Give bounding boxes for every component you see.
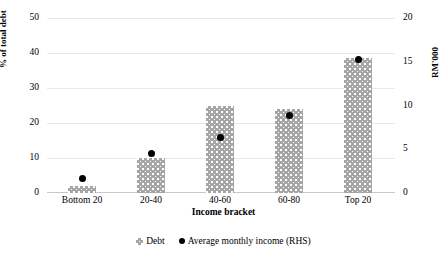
y-axis-right-tick: 5 — [403, 145, 408, 155]
scatter-series-income — [47, 18, 395, 193]
dot-bottom-20 — [79, 175, 86, 182]
y-axis-right-tick: 10 — [403, 101, 413, 111]
y-axis-left-tick: 30 — [30, 83, 40, 93]
chart-legend: Debt Average monthly income (RHS) — [0, 236, 447, 246]
x-axis-label: 20-40 — [140, 195, 162, 205]
filled-circle-icon — [179, 238, 185, 244]
x-axis-label: 40-60 — [209, 195, 231, 205]
legend-label: Debt — [146, 236, 164, 246]
hatched-square-icon — [136, 238, 143, 245]
legend-label: Average monthly income (RHS) — [188, 236, 311, 246]
y-axis-right-tick: 20 — [403, 13, 413, 23]
plot-area — [47, 18, 395, 193]
legend-item-debt: Debt — [136, 236, 164, 246]
legend-item-average-monthly-income: Average monthly income (RHS) — [179, 236, 311, 246]
y-axis-left-tick: 10 — [30, 153, 40, 163]
y-axis-left-tick: 40 — [30, 48, 40, 58]
x-axis-label: 60-80 — [278, 195, 300, 205]
x-axis-label: Top 20 — [345, 195, 372, 205]
y-axis-right-tick: 15 — [403, 57, 413, 67]
y-axis-left-tick: 0 — [34, 188, 39, 198]
x-axis-title: Income bracket — [0, 207, 447, 217]
dot-20-40 — [148, 150, 155, 157]
y-axis-left-tick: 50 — [30, 13, 40, 23]
y-axis-left-tick: 20 — [30, 118, 40, 128]
dot-40-60 — [217, 134, 224, 141]
dot-60-80 — [286, 112, 293, 119]
dot-top-20 — [355, 56, 362, 63]
y-axis-right-title: RM'000 — [430, 47, 440, 78]
y-axis-left-title: % of total debt — [0, 54, 8, 68]
x-axis-label: Bottom 20 — [62, 195, 102, 205]
y-axis-right-tick: 0 — [403, 188, 408, 198]
y-axis-right: 0 5 10 15 20 — [395, 0, 447, 261]
chart-figure: 0 10 20 30 40 50 % of total debt — [0, 0, 447, 261]
